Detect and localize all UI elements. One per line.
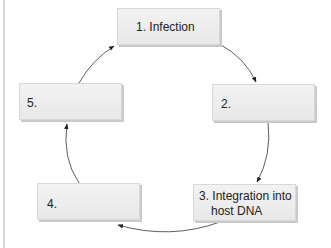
step-3-label-line2: host DNA bbox=[211, 204, 262, 218]
step-2-label: 2. bbox=[221, 97, 231, 111]
step-5-label: 5. bbox=[27, 96, 37, 110]
step-5-box: 5. bbox=[19, 83, 122, 120]
arrow-4-to-5 bbox=[66, 124, 79, 183]
step-1-box: 1. Infection bbox=[117, 8, 220, 45]
arrow-2-to-3 bbox=[257, 122, 269, 182]
step-4-label: 4. bbox=[47, 197, 57, 211]
step-3-label: 3. Integration into bbox=[199, 189, 292, 203]
step-1-label: 1. Infection bbox=[136, 20, 195, 34]
step-3-box: 3. Integration into host DNA bbox=[193, 184, 296, 221]
arrow-3-to-4 bbox=[118, 222, 220, 232]
step-2-box: 2. bbox=[212, 84, 315, 121]
step-4-box: 4. bbox=[37, 183, 140, 220]
arrow-5-to-1 bbox=[79, 46, 114, 83]
arrow-1-to-2 bbox=[221, 45, 256, 82]
